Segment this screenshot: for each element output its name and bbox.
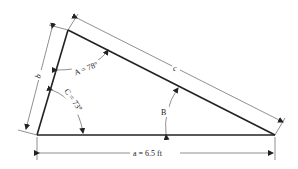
- angle-b-label: B: [161, 108, 166, 117]
- triangle-diagram: b c a = 6.5 ft A = 78° C = 73° B: [0, 0, 298, 169]
- angle-a-marker: A = 78°: [57, 50, 108, 78]
- angle-c-marker: C = 73°: [52, 86, 86, 133]
- side-b-dimension: b: [18, 25, 68, 135]
- side-c-label: c: [173, 64, 177, 73]
- side-a-label: a = 6.5 ft: [133, 149, 163, 158]
- angle-b-marker: B: [160, 88, 178, 135]
- side-a-dimension: a = 6.5 ft: [37, 137, 275, 160]
- triangle: [37, 30, 275, 135]
- side-c-dimension: c: [68, 14, 285, 135]
